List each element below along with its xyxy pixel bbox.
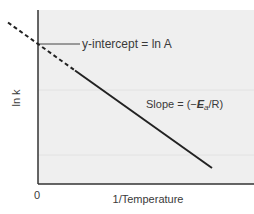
arrhenius-plot: y-intercept = ln A Slope = (−Ea/R) ln k …: [0, 0, 254, 214]
slope-label: Slope = (−Ea/R): [146, 98, 223, 112]
y-axis-label: ln k: [10, 89, 22, 107]
x-axis-label: 1/Temperature: [113, 193, 184, 205]
slope-suffix: /R): [209, 98, 224, 110]
slope-prefix: Slope = (−: [146, 98, 197, 110]
origin-tick-label: 0: [34, 189, 40, 201]
intercept-label: y-intercept = ln A: [82, 37, 172, 51]
